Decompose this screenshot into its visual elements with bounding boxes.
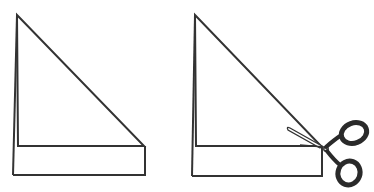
panel-cutting-paper xyxy=(192,15,322,176)
triangle-shape xyxy=(195,15,321,146)
fold-edge xyxy=(13,15,17,175)
panel-folded-paper xyxy=(13,15,145,175)
triangle-shape xyxy=(17,15,144,146)
strip-rectangle xyxy=(192,146,322,176)
fold-edge xyxy=(192,15,195,176)
strip-rectangle xyxy=(13,146,145,175)
diagram-canvas xyxy=(0,0,374,192)
scissors-icon xyxy=(287,119,369,188)
